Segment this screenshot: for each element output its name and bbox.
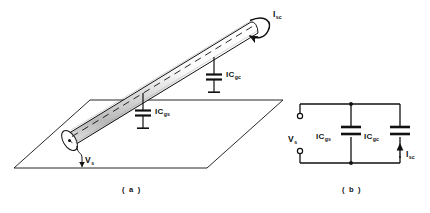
source-voltage-bracket <box>77 146 85 167</box>
caption-panel-a: ( a ) <box>122 185 141 194</box>
terminal-top <box>297 113 302 118</box>
label-capacitance-gc-b: ICgc <box>364 126 379 142</box>
label-capacitance-gs-a: ICgs <box>155 101 170 117</box>
terminal-bottom <box>297 148 302 153</box>
circuit-capacitor-right-symbol <box>390 127 410 134</box>
label-capacitance-gs-b: ICgs <box>316 126 331 142</box>
caption-panel-b: ( b ) <box>342 185 362 194</box>
circuit-capacitor-left-symbol <box>341 127 361 134</box>
label-source-voltage-b: Vs <box>288 129 297 145</box>
cable-cylinder <box>58 20 258 154</box>
figure-root: Isc ICgc ICgs Vs Vs ICgs ICgc Isc ( a ) … <box>0 0 430 213</box>
circuit-current-arrow <box>397 143 404 158</box>
node-top-mid <box>349 102 353 106</box>
figure-vector-art <box>0 0 430 213</box>
node-bottom-mid <box>349 161 353 165</box>
label-current-sc-b: Isc <box>406 144 415 160</box>
label-voltage-s-a: Vs <box>85 150 94 166</box>
label-current-sc-a: Isc <box>273 4 282 20</box>
label-capacitance-gc-a: ICgc <box>226 64 241 80</box>
